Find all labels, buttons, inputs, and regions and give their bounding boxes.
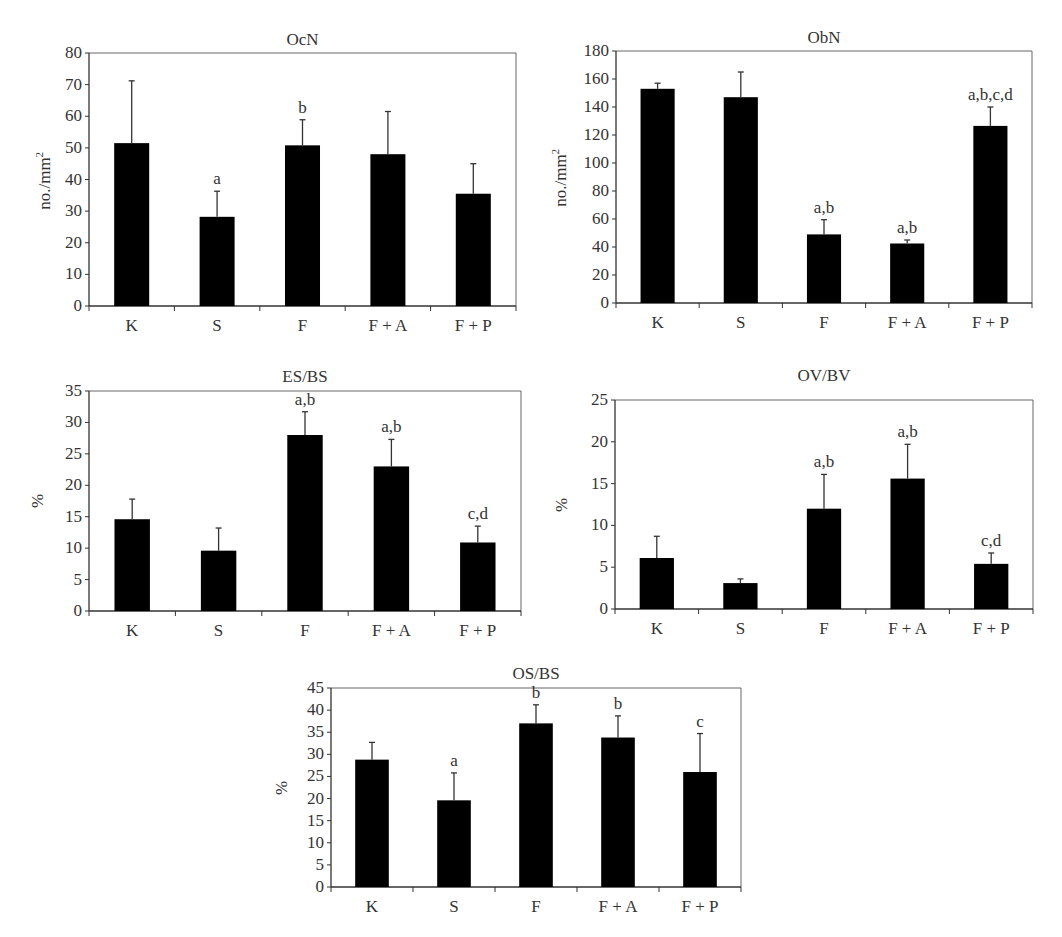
- significance-annotation: a: [409, 752, 499, 769]
- y-tick-label: 15: [568, 475, 608, 492]
- significance-annotation: a,b: [779, 199, 869, 216]
- y-tick-label: 60: [569, 210, 609, 227]
- bar: [683, 772, 717, 887]
- x-category-label: F + P: [950, 314, 1030, 331]
- y-axis-label: %: [552, 445, 572, 565]
- x-category-label: F + A: [867, 314, 947, 331]
- significance-annotation: a,b: [260, 391, 350, 408]
- bar: [437, 800, 471, 887]
- y-tick-label: 30: [42, 413, 82, 430]
- y-tick-label: 35: [42, 382, 82, 399]
- significance-annotation: c,d: [946, 532, 1036, 549]
- x-category-label: K: [618, 314, 698, 331]
- y-tick-label: 40: [569, 238, 609, 255]
- y-axis-label: %: [272, 728, 292, 848]
- significance-annotation: b: [491, 684, 581, 701]
- y-tick-label: 180: [569, 42, 609, 59]
- x-category-label: K: [332, 898, 412, 915]
- x-category-label: S: [414, 898, 494, 915]
- significance-annotation: a: [172, 170, 262, 187]
- x-category-label: F: [496, 898, 576, 915]
- significance-annotation: a,b,c,d: [945, 86, 1035, 103]
- y-tick-label: 140: [569, 98, 609, 115]
- significance-annotation: b: [258, 99, 348, 116]
- y-tick-label: 0: [569, 294, 609, 311]
- y-tick-label: 20: [569, 266, 609, 283]
- y-tick-label: 120: [569, 126, 609, 143]
- x-category-label: F: [784, 314, 864, 331]
- y-tick-label: 10: [42, 539, 82, 556]
- significance-annotation: a,b: [779, 453, 869, 470]
- significance-annotation: a,b: [346, 418, 436, 435]
- y-tick-label: 5: [568, 558, 608, 575]
- plot-area: [0, 0, 1062, 937]
- y-tick-label: 80: [569, 182, 609, 199]
- y-tick-label: 20: [568, 433, 608, 450]
- y-axis-label: no./mm2: [549, 118, 571, 238]
- y-tick-label: 15: [42, 508, 82, 525]
- significance-annotation: c,d: [433, 505, 523, 522]
- x-category-label: K: [617, 620, 697, 637]
- y-tick-label: 70: [42, 76, 82, 93]
- x-category-label: F + A: [578, 898, 658, 915]
- y-tick-label: 0: [42, 297, 82, 314]
- chart-title: OV/BV: [615, 366, 1033, 386]
- x-category-label: K: [92, 622, 172, 639]
- x-category-label: S: [179, 622, 259, 639]
- y-tick-label: 10: [568, 516, 608, 533]
- y-tick-label: 5: [42, 571, 82, 588]
- y-tick-label: 10: [42, 265, 82, 282]
- y-tick-label: 20: [42, 476, 82, 493]
- y-tick-label: 100: [569, 154, 609, 171]
- x-category-label: F + P: [660, 898, 740, 915]
- x-category-label: S: [701, 314, 781, 331]
- x-category-label: F + A: [348, 317, 428, 334]
- y-tick-label: 0: [284, 878, 324, 895]
- y-tick-label: 25: [568, 391, 608, 408]
- x-category-label: F + P: [438, 622, 518, 639]
- x-category-label: F + P: [951, 620, 1031, 637]
- x-category-label: K: [92, 317, 172, 334]
- x-category-label: S: [700, 620, 780, 637]
- bar: [355, 760, 389, 887]
- significance-annotation: a,b: [862, 219, 952, 236]
- significance-annotation: a,b: [863, 423, 953, 440]
- y-tick-label: 40: [284, 701, 324, 718]
- significance-annotation: b: [573, 695, 663, 712]
- x-category-label: S: [177, 317, 257, 334]
- bar: [519, 723, 553, 887]
- y-tick-label: 0: [568, 600, 608, 617]
- x-category-label: F: [265, 622, 345, 639]
- y-tick-label: 0: [42, 602, 82, 619]
- y-tick-label: 45: [284, 679, 324, 696]
- x-category-label: F + A: [868, 620, 948, 637]
- x-category-label: F: [263, 317, 343, 334]
- y-tick-label: 5: [284, 856, 324, 873]
- chart-title: OS/BS: [331, 664, 741, 684]
- y-tick-label: 160: [569, 70, 609, 87]
- chart-title: OcN: [89, 30, 516, 50]
- y-tick-label: 80: [42, 44, 82, 61]
- y-axis-label: no./mm2: [33, 120, 55, 240]
- bar: [601, 738, 635, 887]
- chart-title: ES/BS: [89, 367, 521, 387]
- y-axis-label: %: [28, 441, 48, 561]
- y-tick-label: 25: [42, 445, 82, 462]
- x-category-label: F + P: [433, 317, 513, 334]
- x-category-label: F: [784, 620, 864, 637]
- significance-annotation: c: [655, 713, 745, 730]
- chart-title: ObN: [616, 28, 1032, 48]
- x-category-label: F + A: [351, 622, 431, 639]
